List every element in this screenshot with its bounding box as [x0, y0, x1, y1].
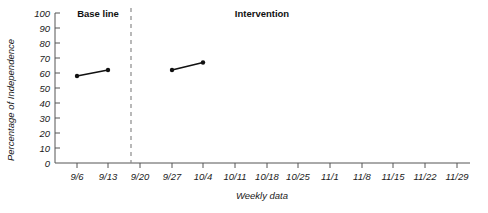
y-tick-label: 100 [34, 8, 51, 19]
y-tick-label: 20 [38, 128, 50, 139]
chart-figure: Percentage of Independence 100 90 80 70 … [0, 0, 488, 213]
phase-label-intervention: Intervention [235, 8, 290, 19]
x-tick-label: 10/25 [286, 171, 310, 182]
x-tick-label: 11/15 [381, 171, 405, 182]
x-tick-label: 11/22 [413, 171, 437, 182]
x-tick-label: 11/8 [353, 171, 372, 182]
x-tick-label: 9/13 [99, 171, 118, 182]
series-baseline-line [77, 70, 108, 76]
x-tick-label: 9/6 [70, 171, 84, 182]
y-axis-title: Percentage of Independence [5, 39, 16, 161]
y-axis-tick-labels: 100 90 80 70 60 50 40 30 20 10 0 [34, 8, 51, 169]
x-axis-ticks [77, 163, 457, 168]
phase-label-baseline: Base line [77, 8, 119, 19]
y-tick-label: 50 [39, 83, 50, 94]
y-tick-label: 0 [45, 158, 51, 169]
x-tick-label: 10/18 [255, 171, 279, 182]
series-baseline [75, 68, 110, 78]
chart-canvas: Percentage of Independence 100 90 80 70 … [0, 0, 488, 213]
x-tick-label: 10/4 [194, 171, 213, 182]
x-tick-label: 9/20 [131, 171, 150, 182]
data-point [106, 68, 110, 72]
x-tick-label: 9/27 [163, 171, 182, 182]
data-point [170, 68, 174, 72]
x-axis-tick-labels: 9/6 9/13 9/20 9/27 10/4 10/11 10/18 10/2… [70, 171, 469, 182]
y-tick-label: 80 [39, 38, 50, 49]
y-tick-label: 40 [39, 98, 50, 109]
x-tick-label: 10/11 [223, 171, 246, 182]
y-tick-label: 70 [39, 53, 50, 64]
y-tick-label: 10 [39, 143, 50, 154]
y-tick-label: 60 [39, 68, 50, 79]
data-point [75, 74, 79, 78]
y-tick-label: 30 [39, 113, 50, 124]
y-tick-label: 90 [39, 23, 50, 34]
x-tick-label: 11/29 [445, 171, 469, 182]
x-axis-title: Weekly data [236, 190, 288, 201]
data-point [201, 60, 205, 64]
x-tick-label: 11/1 [321, 171, 339, 182]
series-intervention [170, 60, 205, 72]
y-axis-ticks [55, 13, 60, 148]
series-intervention-line [172, 63, 203, 71]
